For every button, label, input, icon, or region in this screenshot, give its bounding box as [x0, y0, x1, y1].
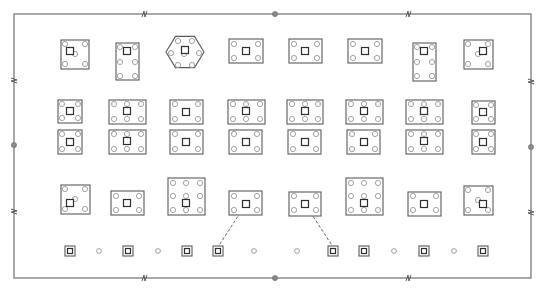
pile-circle [124, 131, 129, 136]
pile-circle [452, 249, 457, 254]
pile-circle [170, 193, 175, 198]
pile-cap-r2c2[interactable] [109, 100, 146, 124]
pile-circle [195, 101, 200, 106]
pile-cap-r1c4[interactable] [229, 39, 263, 63]
pile-circle [361, 116, 366, 121]
pile-cap-r2c4[interactable] [228, 100, 265, 124]
pile-cap-r1c5[interactable] [289, 39, 322, 63]
pile-circle [138, 146, 143, 151]
pile-cap-r1c7[interactable] [413, 43, 436, 81]
single-pile-boxed[interactable] [123, 246, 133, 256]
pile-circle [59, 131, 64, 136]
single-pile-open[interactable] [392, 249, 397, 254]
pile-circle [485, 41, 490, 46]
pile-circle [485, 61, 490, 66]
single-pile-open[interactable] [97, 249, 102, 254]
column-square [182, 47, 189, 54]
single-pile-open[interactable] [295, 249, 300, 254]
column-square [67, 48, 74, 55]
pile-cap-r3c3[interactable] [170, 130, 203, 154]
pile-circle [433, 193, 438, 198]
pile-circle [111, 101, 116, 106]
pile-circle [473, 131, 478, 136]
pile-circle [172, 131, 177, 136]
pile-circle [195, 116, 200, 121]
single-pile-boxed[interactable] [213, 246, 223, 256]
pile-circle [289, 116, 294, 121]
pile-circle [59, 146, 64, 151]
pile-circle [375, 101, 380, 106]
pile-cap-r3c5[interactable] [288, 130, 321, 154]
pile-cap-r3c1[interactable] [58, 130, 82, 154]
pile-circle [138, 101, 143, 106]
single-pile-boxed[interactable] [182, 246, 192, 256]
column-square [67, 108, 74, 115]
pile-circle [375, 180, 380, 185]
pile-circle [124, 101, 129, 106]
pile-circle [372, 131, 377, 136]
pile-circle [117, 44, 122, 49]
pile-cap-r2c3[interactable] [170, 100, 203, 124]
pile-circle [59, 115, 64, 120]
pile-circle [313, 146, 318, 151]
single-pile-boxed[interactable] [359, 246, 369, 256]
pile-cap-r1c6[interactable] [348, 39, 382, 63]
pile-circle [243, 116, 248, 121]
pile-cap-r1c8[interactable] [464, 40, 493, 69]
pile-circle [113, 207, 118, 212]
pile-circle [348, 193, 353, 198]
pile-circle [170, 207, 175, 212]
pile-circle [421, 146, 426, 151]
pile-cap-r3c8[interactable] [472, 130, 495, 154]
single-pile-boxed[interactable] [328, 246, 338, 256]
pile-circle [82, 41, 87, 46]
column-square [361, 200, 368, 207]
single-pile-boxed[interactable] [65, 246, 75, 256]
pile-cap-r2c7[interactable] [406, 100, 443, 124]
pile-cap-r4c5[interactable] [289, 192, 321, 216]
pile-cap-r3c6[interactable] [347, 130, 380, 154]
pile-cap-r2c5[interactable] [287, 100, 323, 124]
pile-cap-r4c7[interactable] [408, 192, 441, 216]
grid-node-icon [11, 142, 16, 147]
pile-circle [231, 207, 236, 212]
column-square [124, 138, 131, 145]
single-pile-boxed[interactable] [419, 246, 429, 256]
pile-cap-r1c2[interactable] [116, 43, 139, 80]
pile-circle [252, 249, 257, 254]
pile-cap-r1c1[interactable] [61, 40, 89, 69]
pile-cap-r4c4[interactable] [229, 191, 262, 215]
single-piles [65, 246, 488, 256]
column-square [421, 201, 428, 208]
pile-cap-r2c1[interactable] [58, 100, 82, 123]
pile-circle [168, 50, 173, 55]
single-pile-open[interactable] [156, 249, 161, 254]
pile-circle [410, 193, 415, 198]
pile-cap-r4c1[interactable] [61, 185, 90, 214]
pile-circle [183, 207, 188, 212]
column-square [243, 201, 250, 208]
pile-cap-r2c6[interactable] [346, 100, 383, 124]
pile-circle [429, 59, 434, 64]
pile-cap-r3c2[interactable] [109, 130, 146, 154]
pile-cap-r2c8[interactable] [472, 101, 495, 124]
pile-cap-r1c3[interactable] [166, 36, 204, 67]
pile-cap-r4c2[interactable] [111, 191, 144, 215]
pile-circle [189, 62, 194, 67]
pile-cap-r3c4[interactable] [229, 130, 262, 154]
single-pile-boxed[interactable] [478, 246, 488, 256]
column-square [243, 139, 250, 146]
pile-cap-r3c7[interactable] [406, 130, 443, 154]
pile-circle [473, 146, 478, 151]
pile-caps [58, 36, 495, 216]
pile-cap-r4c6[interactable] [346, 178, 383, 215]
single-pile-open[interactable] [252, 249, 257, 254]
pile-circle [156, 249, 161, 254]
pile-cap-r4c8[interactable] [464, 186, 493, 215]
pile-circle [488, 116, 493, 121]
pile-cap-r4c3[interactable] [168, 178, 205, 215]
single-pile-open[interactable] [452, 249, 457, 254]
pile-circle [302, 101, 307, 106]
pile-circle [429, 44, 434, 49]
pile-circle [348, 116, 353, 121]
